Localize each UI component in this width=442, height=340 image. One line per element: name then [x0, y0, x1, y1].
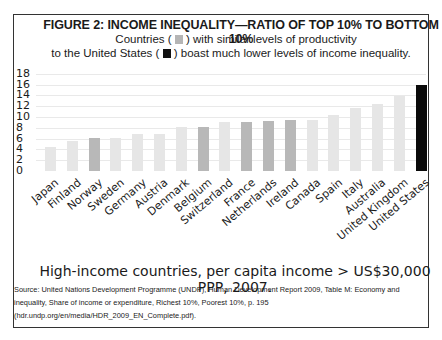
y-tick-label: 4: [16, 143, 34, 154]
bar-finland: [67, 141, 78, 171]
y-tick-label: 2: [16, 154, 34, 165]
y-tick-label: 16: [16, 79, 34, 90]
bar-chart: 024681012141618JapanFinlandNorwaySwedenG…: [0, 0, 442, 260]
bar-netherlands: [263, 121, 274, 171]
bar-canada: [307, 120, 318, 171]
y-tick-label: 8: [16, 122, 34, 133]
bar-italy: [350, 108, 361, 171]
y-tick-label: 10: [16, 111, 34, 122]
bar-australia: [372, 104, 383, 172]
bar-belgium: [198, 127, 209, 171]
bar-united-states: [416, 85, 427, 171]
bar-germany: [132, 134, 143, 171]
gridline: [36, 106, 426, 107]
bar-switzerland: [219, 122, 230, 171]
bar-united-kingdom: [394, 96, 405, 171]
source-note: Source: United Nations Development Progr…: [14, 283, 424, 322]
bar-denmark: [176, 127, 187, 171]
gridline: [36, 85, 426, 86]
gridline: [36, 128, 426, 129]
y-tick-label: 6: [16, 133, 34, 144]
bar-ireland: [285, 120, 296, 171]
gridline: [36, 117, 426, 118]
y-tick-label: 18: [16, 68, 34, 79]
bar-spain: [328, 115, 339, 171]
bar-norway: [89, 138, 100, 171]
bar-france: [241, 122, 252, 171]
y-tick-label: 14: [16, 89, 34, 100]
bar-austria: [154, 134, 165, 171]
gridline: [36, 95, 426, 96]
bar-sweden: [110, 138, 121, 171]
gridline: [36, 74, 426, 75]
y-tick-label: 12: [16, 100, 34, 111]
y-tick-label: 0: [16, 165, 34, 176]
bar-japan: [45, 147, 56, 171]
